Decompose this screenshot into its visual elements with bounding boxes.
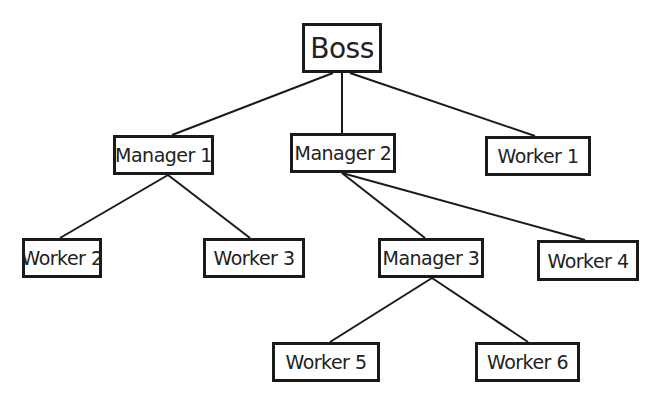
edge-manager1-to-worker3 xyxy=(168,175,250,238)
edge-manager2-to-worker4 xyxy=(342,173,585,240)
node-worker-1: Worker 1 xyxy=(485,136,591,176)
edge-manager3-to-worker6 xyxy=(432,278,528,342)
node-manager-2: Manager 2 xyxy=(290,133,396,173)
edge-manager2-to-manager3 xyxy=(342,173,425,238)
node-worker-3: Worker 3 xyxy=(203,238,305,278)
edge-manager3-to-worker5 xyxy=(330,278,432,342)
node-manager-1: Manager 1 xyxy=(113,135,214,175)
node-worker-6: Worker 6 xyxy=(475,342,580,382)
edge-boss-to-worker1 xyxy=(350,73,535,136)
node-boss: Boss xyxy=(302,23,382,73)
node-worker-5: Worker 5 xyxy=(272,342,380,382)
edge-manager1-to-worker2 xyxy=(60,175,168,238)
edge-boss-to-manager1 xyxy=(172,73,333,135)
node-worker-2: Worker 2 xyxy=(22,238,102,278)
node-worker-4: Worker 4 xyxy=(537,240,639,281)
node-manager-3: Manager 3 xyxy=(378,238,484,278)
org-chart-diagram: Boss Manager 1 Manager 2 Worker 1 Worker… xyxy=(0,0,667,404)
